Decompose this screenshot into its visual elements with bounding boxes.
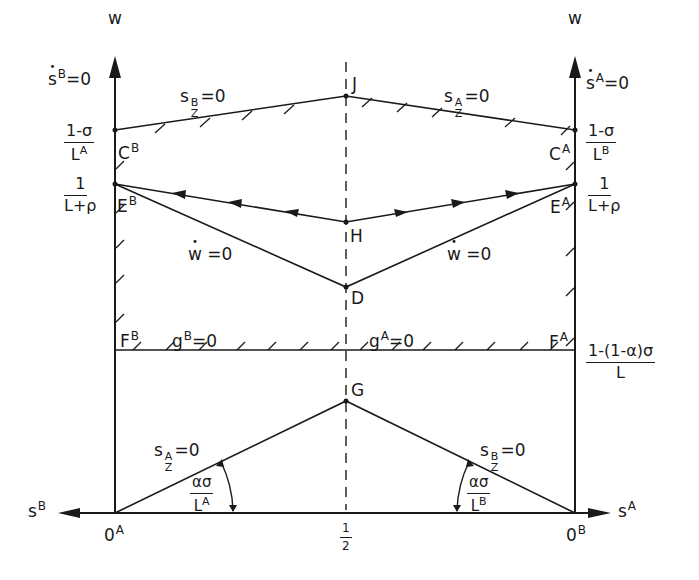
point-G-marker — [344, 399, 349, 404]
point-EA-marker — [573, 182, 578, 187]
left-s-axis-label: sB — [28, 500, 46, 520]
wdot-zero-lines — [115, 184, 575, 287]
right-w-axis-label: w — [568, 10, 582, 27]
point-CB-marker — [113, 128, 118, 133]
wdot-right-label: w =0 — [447, 246, 491, 263]
point-J-label: J — [352, 76, 357, 93]
lower-left-sz-label: sAZ=0 — [154, 442, 199, 473]
right-s-axis-arrow-icon — [588, 508, 611, 518]
point-H-marker — [344, 220, 349, 225]
wdot-left-label: w =0 — [188, 246, 232, 263]
right-w-axis-arrow-icon — [569, 56, 581, 78]
left-axis-condition: sB=0 — [48, 68, 91, 88]
left-angle-arrow-bottom-icon — [229, 505, 237, 512]
trajectory-EB-H-EA — [115, 184, 575, 222]
left-w-axis-arrow-icon — [109, 56, 121, 78]
origin-right-label: 0B — [566, 524, 586, 544]
right-tick-1-minus-sigma-over-LB: 1-σ LB — [586, 123, 616, 164]
right-axis-condition: sA=0 — [586, 72, 629, 92]
point-CA-marker — [573, 128, 578, 133]
right-angle-arrow-bottom-icon — [453, 505, 461, 512]
point-FA-label: FA — [549, 331, 568, 351]
right-tick-g-threshold: 1-(1-α)σ L — [586, 343, 655, 382]
point-EB-label: EB — [117, 195, 137, 215]
point-H-label: H — [350, 228, 363, 245]
point-CB-label: CB — [118, 142, 139, 162]
lower-right-sz-label: sBZ=0 — [480, 442, 525, 473]
point-J-marker — [344, 94, 349, 99]
point-D-marker — [344, 285, 349, 290]
point-EA-label: EA — [550, 196, 570, 216]
trajectory-arrow-icon — [394, 209, 408, 217]
left-w-axis-label: w — [108, 10, 122, 27]
left-angle-label: ασ LA — [190, 475, 213, 515]
left-tick-1-over-Lbar-plus-rho: 1 L+ρ — [64, 176, 96, 215]
upper-left-sz-label: sBZ=0 — [180, 88, 225, 119]
right-angle-label: ασ LB — [467, 475, 490, 515]
left-angle-arc — [221, 462, 233, 511]
trajectory-arrow-icon — [505, 190, 519, 199]
g-left-label: gB=0 — [172, 330, 217, 350]
left-tick-1-minus-sigma-over-LA: 1-σ LA — [64, 123, 94, 164]
trajectory-arrow-icon — [451, 199, 465, 208]
origin-left-label: 0A — [104, 524, 124, 544]
left-s-axis-arrow-icon — [58, 508, 80, 518]
midpoint-half-label: 1 2 — [340, 522, 352, 552]
right-tick-1-over-Lbar-plus-rho: 1 L+ρ — [588, 176, 620, 215]
point-G-label: G — [351, 382, 364, 399]
point-CA-label: CA — [549, 143, 570, 163]
point-D-label: D — [351, 290, 364, 307]
upper-right-sz-label: sAZ=0 — [444, 88, 489, 119]
point-FB-label: FB — [120, 330, 139, 350]
point-EB-marker — [113, 182, 118, 187]
right-s-axis-label: sA — [618, 500, 636, 520]
g-right-label: gA=0 — [369, 330, 414, 350]
